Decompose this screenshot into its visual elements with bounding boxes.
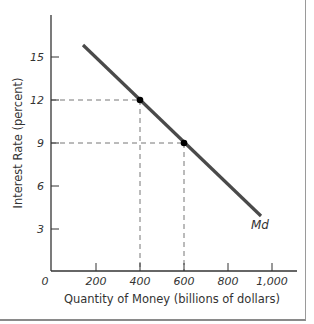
money-demand-chart: 15 12 9 6 3 0 200 400 600 800 1,000 Quan…	[0, 0, 314, 324]
money-demand-curve	[83, 45, 261, 216]
x-tick-label: 600	[174, 275, 195, 288]
y-tick-label: 15	[30, 51, 44, 64]
x-tick-label: 0	[42, 275, 49, 288]
equilibrium-point-400-12	[137, 97, 144, 104]
y-tick-label: 9	[37, 137, 44, 150]
curve-label-md: Md	[251, 218, 269, 232]
y-axis-title: Interest Rate (percent)	[11, 77, 25, 208]
x-tick-label: 200	[86, 275, 107, 288]
y-tick-label: 12	[30, 94, 44, 107]
y-tick-label: 6	[37, 180, 44, 193]
x-ticks	[96, 263, 272, 271]
x-tick-label: 400	[130, 275, 151, 288]
equilibrium-point-600-9	[181, 140, 188, 147]
x-axis-title: Quantity of Money (billions of dollars)	[64, 292, 280, 306]
x-tick-label: 800	[218, 275, 239, 288]
y-ticks	[51, 57, 59, 229]
x-tick-label: 1,000	[256, 275, 288, 288]
y-tick-label: 3	[37, 223, 44, 236]
